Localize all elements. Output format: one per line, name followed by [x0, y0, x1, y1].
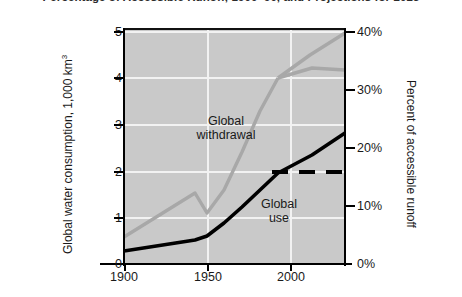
x-axis-line: [100, 263, 352, 265]
y2-tick-label-20: 20%: [357, 141, 382, 155]
series-label-global-withdrawal-line1: Global: [208, 114, 244, 128]
x-tick-label-1900: 1900: [110, 270, 138, 284]
y-axis-title: Global water consumption, 1,000 km3: [60, 40, 75, 270]
y2-tick-label-40: 40%: [357, 25, 382, 39]
x-tick-label-1950: 1950: [194, 270, 222, 284]
y-axis-line: [123, 28, 125, 266]
y-tick-mark-5: [114, 31, 123, 33]
series-global-withdrawal-projection-high: [278, 33, 345, 78]
y2-tick-label-10: 10%: [357, 199, 382, 213]
y2-tick-mark-40: [346, 31, 355, 33]
x-tick-label-2000: 2000: [277, 270, 305, 284]
y-tick-mark-1: [114, 217, 123, 219]
y-tick-label-0: 0: [88, 257, 122, 271]
y-axis-title-exponent: 3: [60, 55, 69, 59]
series-global-use-projection-high: [278, 133, 345, 173]
series-label-global-withdrawal-line2: withdrawal: [196, 128, 255, 142]
series-label-global-use-line1: Global: [261, 197, 297, 211]
plot-border-top: [123, 28, 346, 30]
y2-tick-mark-20: [346, 147, 355, 149]
series-label-global-withdrawal: Global withdrawal: [180, 114, 272, 142]
y-tick-mark-3: [114, 124, 123, 126]
series-label-global-use: Global use: [249, 197, 309, 225]
y2-tick-mark-10: [346, 205, 355, 207]
figure: Percentage of Accessible Runoff, 1900–90…: [0, 0, 462, 297]
y-tick-mark-2: [114, 171, 123, 173]
series-label-global-use-line2: use: [269, 211, 289, 225]
y2-tick-mark-30: [346, 89, 355, 91]
y2-tick-label-30: 30%: [357, 83, 382, 97]
y-axis-title-text: Global water consumption, 1,000 km: [61, 59, 75, 254]
y-tick-mark-4: [114, 77, 123, 79]
y2-tick-label-0: 0%: [357, 257, 375, 271]
y2-axis-title: Percent of accessible runoff: [404, 39, 418, 269]
